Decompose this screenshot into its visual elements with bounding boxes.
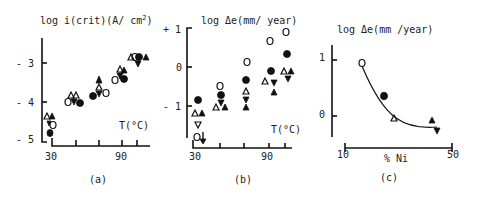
figure: log i(crit)(A/ cm2) - 3 - 4 - 5 30 90 T(… (0, 0, 478, 197)
panel-a-x-axis-label: T(°C) (119, 120, 149, 131)
panel-c-y-axis-label: log Δe(mm /year) (337, 24, 433, 35)
panel-b-xtick: 30 (189, 151, 201, 162)
panel-c-markers (359, 60, 440, 135)
panel-b-ytick: 0 (176, 62, 182, 73)
panel-b-y-axis-label: log Δe(mm/ year) (201, 15, 297, 26)
panel-c-caption: (c) (380, 172, 398, 183)
panel-c-fit-curve (362, 66, 437, 127)
panel-b-xtick: 90 (261, 151, 273, 162)
panel-a-x-axis (52, 138, 150, 146)
panel-b-ytick: + 1 (163, 24, 181, 35)
panel-b-y-axis (187, 28, 192, 138)
panel-a-ytick: - 3 (16, 58, 34, 69)
panel-c-ytick: 1 (319, 52, 325, 63)
panel-c: log Δe(mm /year) 1 0 10 50 % Ni (c) (319, 24, 459, 183)
panel-a-y-axis (42, 38, 47, 142)
panel-b-caption: (b) (234, 174, 252, 185)
panel-a-ytick: - 4 (16, 97, 34, 108)
panel-a-y-axis-label: log i(crit)(A/ cm2) (40, 14, 153, 26)
panel-b-ytick: - 1 (163, 101, 181, 112)
panel-c-xtick: 10 (337, 149, 349, 160)
panel-a-ytick: - 5 (16, 134, 34, 145)
panel-a-xtick: 30 (45, 151, 57, 162)
panel-b-x-axis (193, 140, 292, 148)
panel-c-x-axis-label: % Ni (384, 153, 408, 164)
panel-a: log i(crit)(A/ cm2) - 3 - 4 - 5 30 90 T(… (16, 14, 153, 185)
panel-a-xtick: 90 (115, 151, 127, 162)
panel-b: log Δe(mm/ year) + 1 0 - 1 30 90 T(°C) (… (163, 15, 301, 185)
panel-c-xtick: 50 (447, 149, 459, 160)
panel-a-caption: (a) (89, 174, 107, 185)
panel-c-ytick: 0 (319, 109, 325, 120)
panel-b-x-axis-label: T(°C) (271, 124, 301, 135)
